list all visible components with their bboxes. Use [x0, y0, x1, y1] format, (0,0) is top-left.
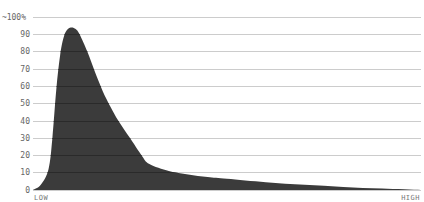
x-axis-label-high: HIGH [401, 194, 420, 202]
y-axis-label: 50 [4, 99, 30, 108]
y-axis-label: 60 [4, 82, 30, 91]
distribution-chart: ~100%9080706050403020100 LOW HIGH [0, 0, 424, 202]
x-axis-label-low: LOW [34, 194, 48, 202]
y-axis-label: 70 [4, 65, 30, 74]
y-axis-label: 10 [4, 168, 30, 177]
y-axis-label: 80 [4, 47, 30, 56]
y-axis-label: 20 [4, 151, 30, 160]
y-axis-label: 0 [4, 186, 30, 195]
y-axis-label: 40 [4, 117, 30, 126]
y-axis-label: 30 [4, 134, 30, 143]
y-axis-label: ~100% [0, 13, 26, 22]
chart-plot-area [0, 0, 424, 202]
y-axis-label: 90 [4, 30, 30, 39]
